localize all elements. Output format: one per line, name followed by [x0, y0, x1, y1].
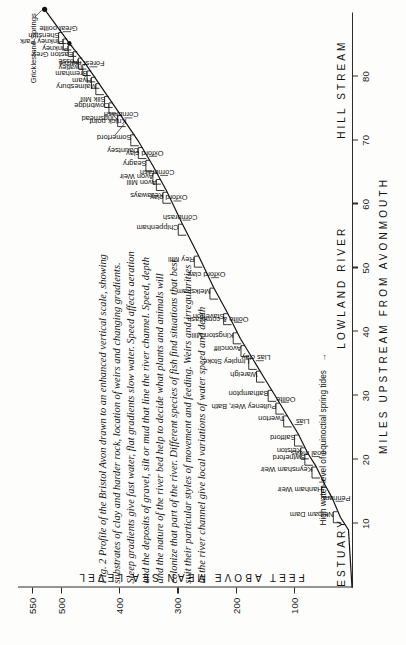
- weir-label: Silk Mill: [80, 94, 105, 103]
- weir-label: Avoncliff: [214, 344, 242, 353]
- source-point-label: Gricklestone Springs: [29, 13, 38, 83]
- geology-label: Oxford clay: [151, 193, 188, 202]
- geology-label: Cornbrash: [162, 212, 197, 221]
- figure-canvas: 1020304050607080 100200300400500550 MILE…: [0, 0, 406, 645]
- weir-label: Bathampton: [229, 388, 269, 397]
- weir-label: Wareigh: [230, 369, 257, 378]
- geology-label: Lias clay: [242, 353, 271, 362]
- geology-label: Oolite: [276, 394, 295, 403]
- geology-label: Lias: [296, 417, 310, 426]
- weir-label: Chippenham: [137, 222, 179, 231]
- figure-caption: Fig. 2 Profile of the Bristol Avon drawn…: [96, 345, 210, 583]
- geology-label: Great oolite: [39, 24, 77, 33]
- geology-label: Cornbrash: [140, 167, 175, 176]
- caption-line: Steep gradients give fast water, flat gr…: [124, 345, 138, 583]
- weir-label: Hanham Weir: [277, 484, 322, 493]
- weir-label: Saltford: [270, 433, 295, 442]
- caption-line: Fig. 2 Profile of the Bristol Avon drawn…: [96, 345, 110, 583]
- weir-label: Pulteney Weir, Bath: [212, 401, 277, 410]
- weir-label: Somerford: [97, 133, 132, 142]
- caption-line: substrates of clay and harder rock, loca…: [110, 345, 124, 583]
- river-profile-chart: 1020304050607080 100200300400500550 MILE…: [0, 0, 406, 645]
- geology-label: Oxford clay: [188, 270, 225, 279]
- caption-line: and the nature of the river bed help to …: [153, 345, 167, 583]
- caption-line: and the deposits of gravel, silt or mud …: [139, 345, 153, 583]
- caption-line: suit their particular styles of movement…: [181, 345, 195, 583]
- caption-line: colonize that part of the river. Differe…: [167, 345, 181, 583]
- weir-label: Seagry: [123, 158, 146, 167]
- weir-label: Keynsham Weir: [260, 465, 312, 474]
- annotation-label: Knick point: [89, 116, 126, 125]
- geology-label: Forest marble: [58, 59, 104, 68]
- caption-line: in the river channel give local variatio…: [195, 345, 209, 583]
- tide-arrow-icon: →: [318, 353, 328, 361]
- source-point-marker: [42, 6, 47, 11]
- geology-label: Oxford clay: [126, 148, 163, 157]
- tide-note-text: High water-level of equinoctial spring t…: [318, 370, 328, 525]
- weir-label: Twerton: [258, 414, 284, 423]
- tide-note: High water-level of equinoctial spring t…: [318, 353, 328, 525]
